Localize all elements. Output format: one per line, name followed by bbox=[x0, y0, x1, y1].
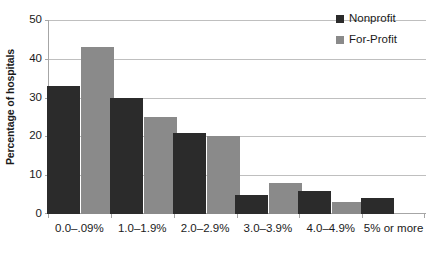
bar bbox=[361, 198, 394, 214]
legend: NonprofitFor-Profit bbox=[336, 12, 397, 54]
y-tick-label: 40 bbox=[16, 53, 42, 65]
x-axis-tick-labels: 0.0–.09%1.0–1.9%2.0–2.9%3.0–3.9%4.0–4.9%… bbox=[48, 222, 425, 244]
y-tick-label: 50 bbox=[16, 14, 42, 26]
y-tick-label: 20 bbox=[16, 131, 42, 143]
x-tick-label: 5% or more bbox=[362, 222, 425, 235]
x-tick-label: 1.0–1.9% bbox=[111, 222, 174, 235]
y-tick-label: 0 bbox=[16, 208, 42, 220]
legend-item-label: For-Profit bbox=[349, 34, 397, 46]
x-tick-label: 0.0–.09% bbox=[48, 222, 111, 235]
bar bbox=[235, 195, 268, 214]
y-tick-label: 30 bbox=[16, 92, 42, 104]
square-swatch-icon bbox=[336, 15, 344, 23]
y-tick-label: 10 bbox=[16, 169, 42, 181]
x-tick-mark bbox=[299, 214, 300, 218]
bar bbox=[173, 133, 206, 214]
x-tick-mark bbox=[174, 214, 175, 218]
bar-chart: Percentage of hospitals 01020304050 0.0–… bbox=[0, 0, 433, 254]
x-tick-mark bbox=[111, 214, 112, 218]
x-tick-label: 3.0–3.9% bbox=[237, 222, 300, 235]
legend-item[interactable]: Nonprofit bbox=[336, 12, 397, 25]
x-tick-mark bbox=[48, 214, 49, 218]
bar bbox=[110, 98, 143, 214]
legend-item-label: Nonprofit bbox=[349, 13, 396, 25]
y-axis-tick-labels: 01020304050 bbox=[12, 0, 42, 254]
x-tick-label: 2.0–2.9% bbox=[174, 222, 237, 235]
bar bbox=[47, 86, 80, 214]
x-tick-mark bbox=[424, 214, 425, 218]
x-tick-label: 4.0–4.9% bbox=[299, 222, 362, 235]
x-axis-tick-marks bbox=[48, 214, 425, 220]
x-tick-mark bbox=[237, 214, 238, 218]
square-swatch-icon bbox=[336, 36, 344, 44]
bar bbox=[298, 191, 331, 214]
x-tick-mark bbox=[362, 214, 363, 218]
legend-item[interactable]: For-Profit bbox=[336, 33, 397, 46]
